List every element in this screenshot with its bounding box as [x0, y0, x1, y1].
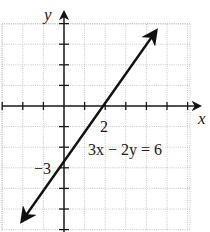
y-intercept-label: −3: [34, 160, 51, 177]
equation-label: 3x − 2y = 6: [88, 141, 162, 159]
coordinate-plane: y x 2 −3 3x − 2y = 6: [0, 0, 210, 232]
x-intercept-label: 2: [100, 118, 108, 135]
grid-lines: [2, 24, 190, 231]
equation-line: [22, 31, 156, 221]
y-axis-label: y: [42, 5, 52, 24]
x-axis-label: x: [197, 109, 206, 128]
